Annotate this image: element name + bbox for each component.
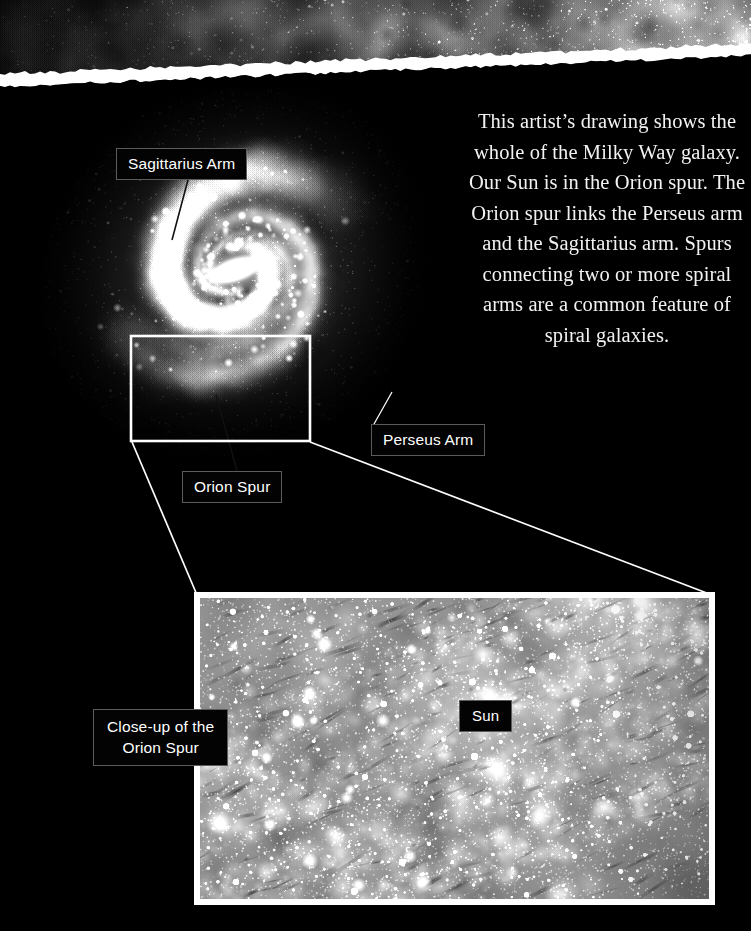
- label-closeup-orion-spur: Close-up of the Orion Spur: [93, 709, 228, 766]
- top-nebula-strip: [0, 0, 751, 92]
- nebula-band-image: [0, 0, 751, 74]
- label-orion-spur: Orion Spur: [182, 471, 282, 503]
- label-sagittarius-arm: Sagittarius Arm: [116, 148, 247, 180]
- orion-spur-closeup-panel: [194, 592, 715, 905]
- label-perseus-arm: Perseus Arm: [371, 424, 485, 456]
- intro-paragraph: This artist’s drawing shows the whole of…: [468, 106, 746, 350]
- label-sun: Sun: [459, 700, 512, 732]
- orion-spur-starfield-image: [200, 598, 709, 899]
- infographic-page: This artist’s drawing shows the whole of…: [0, 0, 751, 931]
